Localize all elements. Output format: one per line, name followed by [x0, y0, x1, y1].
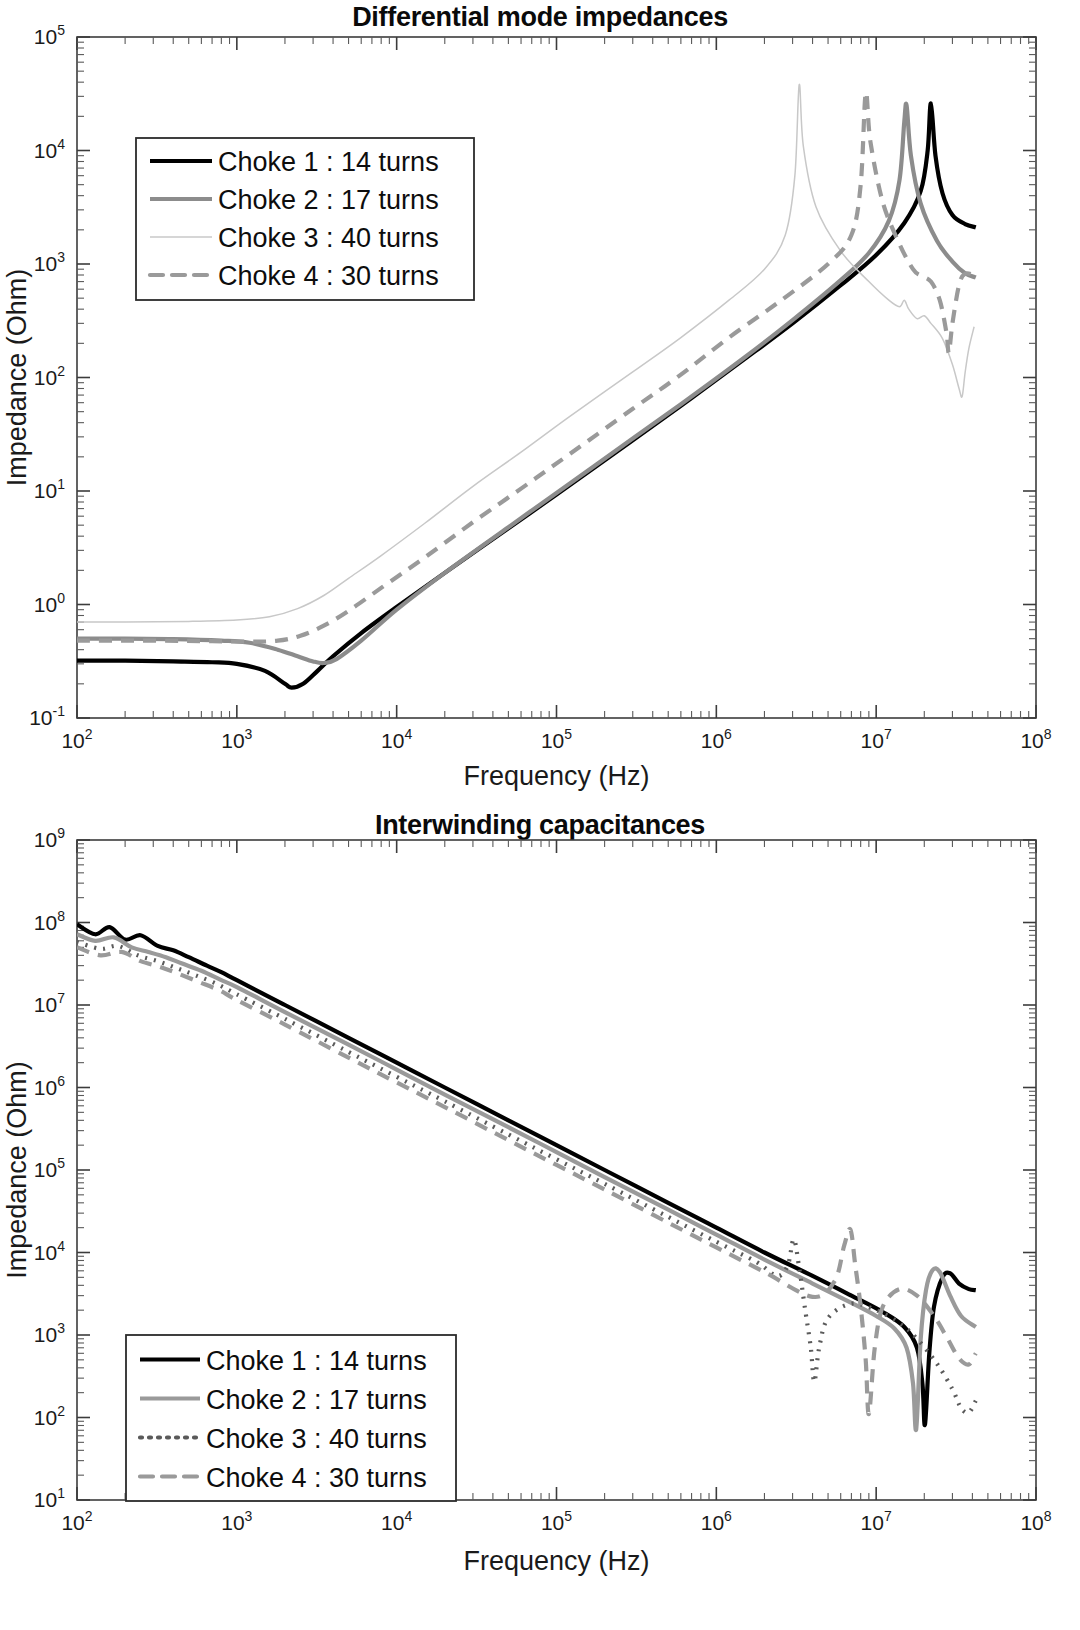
interwinding-capacitances-figure: Interwinding capacitances 10210310410510…	[0, 800, 1080, 1630]
legend-label-2: Choke 2 : 17 turns	[218, 185, 439, 215]
y-tick-label: 102	[34, 363, 65, 389]
x-tick-label: 104	[381, 726, 412, 752]
x-tick-label: 105	[541, 726, 572, 752]
y-tick-label: 102	[34, 1403, 65, 1429]
x-tick-label: 106	[701, 1508, 732, 1534]
y-tick-label: 104	[34, 136, 65, 162]
y-tick-label: 109	[34, 825, 65, 851]
x-tick-label: 104	[381, 1508, 412, 1534]
x-tick-label: 103	[221, 1508, 252, 1534]
y-tick-label: 104	[34, 1238, 65, 1264]
legend-label-1: Choke 1 : 14 turns	[206, 1346, 427, 1376]
x-tick-label: 106	[701, 726, 732, 752]
y-axis-title: Impedance (Ohm)	[2, 1061, 32, 1279]
x-tick-label: 108	[1020, 1508, 1051, 1534]
differential-mode-impedances-figure: Differential mode impedances 10210310410…	[0, 0, 1080, 800]
axes-group: 10210310410510610710810-1100101102103104…	[29, 22, 1052, 752]
x-tick-label: 105	[541, 1508, 572, 1534]
legend-label-4: Choke 4 : 30 turns	[218, 261, 439, 291]
legend-label-2: Choke 2 : 17 turns	[206, 1385, 427, 1415]
y-tick-label: 107	[34, 990, 65, 1016]
y-tick-label: 108	[34, 908, 65, 934]
legend-label-3: Choke 3 : 40 turns	[218, 223, 439, 253]
y-tick-label: 101	[34, 476, 65, 502]
y-tick-label: 106	[34, 1073, 65, 1099]
x-tick-label: 102	[61, 1508, 92, 1534]
y-tick-label: 105	[34, 22, 65, 48]
interwinding-capacitances-chart: 1021031041051061071081011021031041051061…	[0, 800, 1080, 1630]
y-tick-label: 103	[34, 249, 65, 275]
legend-label-1: Choke 1 : 14 turns	[218, 147, 439, 177]
x-tick-label: 107	[861, 726, 892, 752]
y-tick-label: 100	[34, 590, 65, 616]
y-tick-label: 10-1	[29, 703, 65, 729]
legend-label-3: Choke 3 : 40 turns	[206, 1424, 427, 1454]
y-tick-label: 101	[34, 1485, 65, 1511]
x-tick-label: 102	[61, 726, 92, 752]
figure-page: Differential mode impedances 10210310410…	[0, 0, 1080, 1630]
y-tick-label: 103	[34, 1320, 65, 1346]
x-axis-title: Frequency (Hz)	[463, 1546, 649, 1576]
legend: Choke 1 : 14 turnsChoke 2 : 17 turnsChok…	[136, 138, 474, 300]
y-axis-title: Impedance (Ohm)	[2, 269, 32, 487]
legend-label-4: Choke 4 : 30 turns	[206, 1463, 427, 1493]
legend: Choke 1 : 14 turnsChoke 2 : 17 turnsChok…	[126, 1335, 456, 1501]
x-tick-label: 107	[861, 1508, 892, 1534]
x-tick-label: 108	[1020, 726, 1051, 752]
differential-mode-impedances-chart: 10210310410510610710810-1100101102103104…	[0, 0, 1080, 800]
x-axis-title: Frequency (Hz)	[463, 761, 649, 791]
x-tick-label: 103	[221, 726, 252, 752]
y-tick-label: 105	[34, 1155, 65, 1181]
